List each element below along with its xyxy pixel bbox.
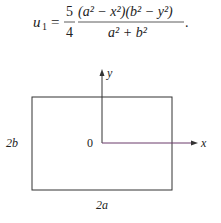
rectangle-diagram [0,0,221,223]
x-axis-label: x [201,137,206,149]
height-label: 2b [6,137,18,149]
y-axis-arrowhead-icon [100,69,105,76]
y-axis-label: y [107,67,112,79]
width-label: 2a [96,199,108,211]
origin-label: 0 [87,137,93,149]
x-axis-arrowhead-icon [191,141,198,146]
